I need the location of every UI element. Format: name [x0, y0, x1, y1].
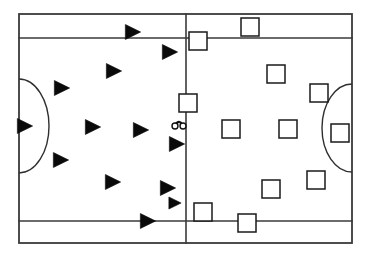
field-svg-canvas: [0, 0, 368, 257]
team-b-token-2: [189, 32, 207, 50]
field-diagram: [0, 0, 368, 257]
ball-circle-left: [172, 123, 178, 129]
team-b-token-1: [241, 18, 259, 36]
team-b-token-11: [194, 203, 212, 221]
team-b-token-5: [179, 94, 197, 112]
team-b-token-8: [331, 124, 349, 142]
team-b-token-4: [310, 84, 328, 102]
ball-circle-right: [180, 123, 186, 129]
team-b-token-3: [267, 65, 285, 83]
team-b-token-7: [279, 120, 297, 138]
team-b-token-9: [307, 171, 325, 189]
team-b-token-12: [238, 214, 256, 232]
team-b-token-10: [262, 180, 280, 198]
team-b-token-6: [222, 120, 240, 138]
